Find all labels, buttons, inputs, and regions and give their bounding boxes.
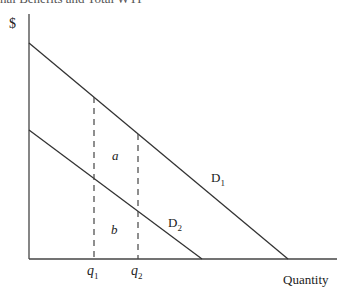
- x-axis-label: Quantity: [283, 272, 329, 288]
- demand-diagram: [0, 0, 351, 298]
- d1-label: D1: [211, 170, 225, 188]
- region-a-label: a: [112, 148, 119, 164]
- q1-tick-label: q1: [87, 263, 99, 281]
- d2-label: D2: [168, 215, 182, 233]
- y-axis-label: $: [9, 16, 16, 32]
- region-b-label: b: [111, 222, 118, 238]
- q2-tick-label: q2: [131, 263, 143, 281]
